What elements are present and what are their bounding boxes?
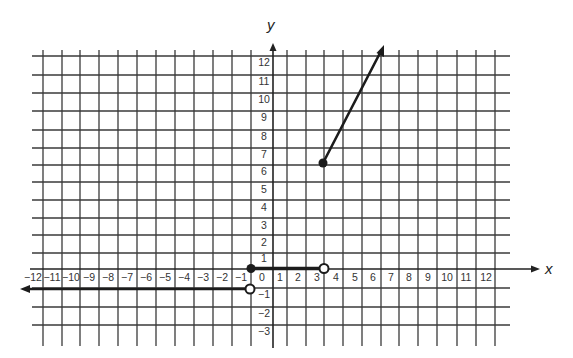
- y-tick-label: 9: [261, 111, 267, 123]
- x-tick-label: −2: [216, 271, 228, 283]
- x-tick-label: 6: [370, 271, 376, 283]
- x-tick-label: 2: [295, 271, 301, 283]
- x-tick-label: −4: [178, 271, 190, 283]
- x-tick-label: 9: [425, 271, 431, 283]
- x-tick-label: 12: [480, 271, 492, 283]
- y-tick-label: −2: [258, 307, 270, 319]
- y-tick-label: 11: [259, 75, 270, 87]
- x-tick-label: 3: [314, 271, 320, 283]
- x-tick-label: −5: [159, 271, 171, 283]
- x-tick-label: −7: [121, 271, 133, 283]
- y-tick-label: 12: [258, 56, 270, 68]
- left-ray-open-endpoint: [246, 285, 255, 294]
- x-axis-label: x: [544, 260, 553, 277]
- y-tick-label: 8: [261, 130, 267, 142]
- middle-segment-open-endpoint: [320, 264, 329, 273]
- x-tick-labels: −12−11−10−9−8−7−6−5−4−3−2−10123456789101…: [24, 271, 492, 283]
- y-tick-label: 10: [258, 93, 270, 105]
- x-tick-label: 5: [352, 271, 358, 283]
- y-tick-label: −1: [258, 288, 270, 300]
- y-tick-label: 4: [261, 201, 267, 213]
- x-tick-label: 10: [441, 271, 453, 283]
- y-tick-label: 1: [261, 252, 267, 264]
- y-tick-label: 6: [261, 165, 267, 177]
- piecewise-function-graph: x y −12−11−10−9−8−7−6−5−4−3−2−1012345678…: [0, 0, 573, 358]
- y-tick-label: 5: [261, 183, 267, 195]
- x-tick-label: −10: [62, 271, 80, 283]
- x-tick-label: 8: [406, 271, 412, 283]
- x-tick-label: −1: [235, 271, 247, 283]
- right-ray-closed-endpoint: [319, 159, 328, 168]
- x-tick-label: 1: [277, 271, 283, 283]
- x-tick-label: −3: [197, 271, 209, 283]
- x-tick-label: −11: [43, 271, 60, 283]
- x-axis-arrow-icon: [531, 266, 540, 273]
- x-tick-label: −8: [102, 271, 114, 283]
- x-tick-label: 4: [333, 271, 339, 283]
- middle-segment-closed-endpoint: [247, 264, 256, 273]
- y-tick-label: 7: [261, 148, 267, 160]
- y-axis-label: y: [266, 16, 276, 33]
- x-tick-label: −12: [24, 271, 42, 283]
- function-pieces: [20, 45, 384, 294]
- right-ray: [323, 53, 380, 163]
- x-tick-label: −9: [83, 271, 95, 283]
- x-tick-label: 7: [388, 271, 394, 283]
- y-tick-label: 3: [261, 219, 267, 231]
- x-tick-label: −6: [140, 271, 152, 283]
- y-tick-label: −3: [258, 325, 270, 337]
- y-tick-label: 2: [261, 236, 267, 248]
- grid: [32, 50, 510, 346]
- y-axis-arrow-icon: [270, 43, 277, 51]
- left-ray-arrow-icon: [20, 285, 30, 293]
- x-tick-label: 11: [461, 271, 472, 283]
- y-tick-labels: 121110987654321−1−2−3: [258, 56, 270, 337]
- x-tick-label: 0: [259, 271, 265, 283]
